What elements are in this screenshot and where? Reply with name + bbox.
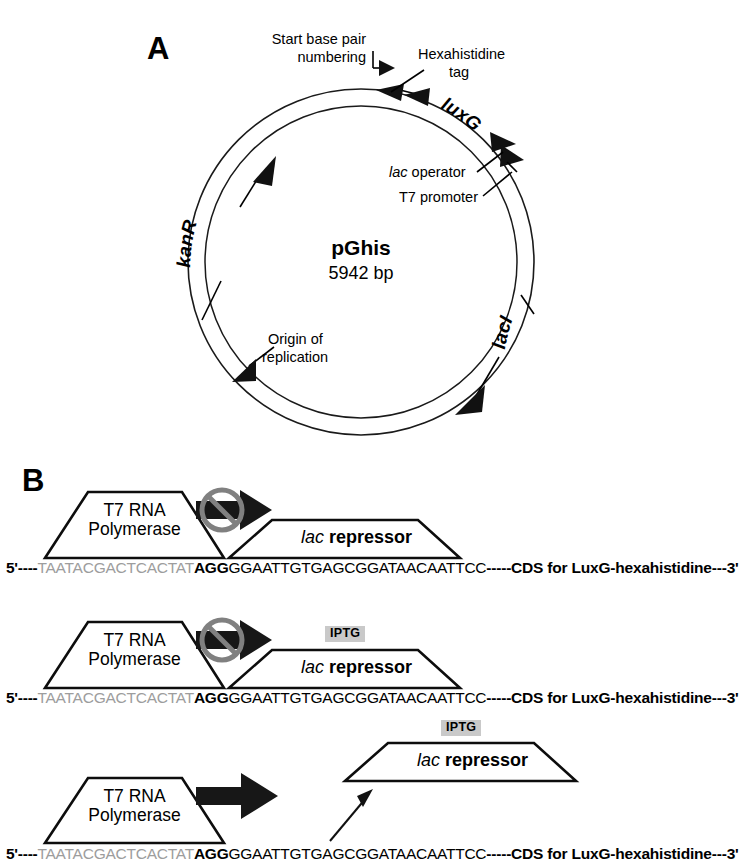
t7-polymerase-label-line2: Polymerase — [88, 519, 180, 539]
repressor-release-arrowhead-row3 — [357, 789, 373, 807]
luxG-arrowhead-4 — [500, 145, 524, 167]
cds-seq-row1: -----CDS for LuxG-hexahistidine---3' — [486, 559, 738, 576]
t7-polymerase-label-row1: T7 RNA Polymerase — [52, 501, 217, 539]
t7-polymerase-label-line1: T7 RNA — [103, 630, 165, 650]
transcription-start-seq-row3: AGG — [194, 845, 229, 862]
cds-seq-row2: -----CDS for LuxG-hexahistidine---3' — [486, 689, 738, 706]
origin-arrowhead — [232, 359, 256, 382]
luxG-arrowhead-2 — [404, 88, 430, 106]
t7-promoter-leader — [483, 172, 512, 196]
iptg-badge-row2: IPTG — [325, 626, 365, 642]
lacI-arrowhead — [455, 385, 485, 415]
iptg-badge-row3: IPTG — [441, 720, 481, 736]
lac-repressor-italic-row1: lac — [301, 527, 324, 547]
lac-repressor-rest-row1: repressor — [329, 527, 412, 547]
lac-operator-seq-row1: GGAATTGTGAGCGGATAACAATTCC — [228, 559, 486, 576]
lac-repressor-italic-row2: lac — [301, 657, 324, 677]
plasmid-map: kanR luxG lacI — [0, 0, 732, 455]
transcription-start-seq-row2: AGG — [194, 689, 229, 706]
t7-polymerase-label-line1: T7 RNA — [103, 786, 165, 806]
t7-polymerase-label-line2: Polymerase — [88, 805, 180, 825]
t7-polymerase-label-line1: T7 RNA — [103, 500, 165, 520]
dna-sequence-row1: 5'----TAATACGACTCACTATAGGGGAATTGTGAGCGGA… — [6, 559, 739, 576]
lac-operator-seq-row2: GGAATTGTGAGCGGATAACAATTCC — [228, 689, 486, 706]
lac-operator-italic: lac — [389, 164, 408, 180]
start-numbering-label-line1: Start base pair — [272, 31, 366, 47]
hexahistidine-label-line2: tag — [449, 64, 469, 80]
transcription-start-seq-row1: AGG — [194, 559, 229, 576]
five-prime-row3: 5'---- — [6, 845, 37, 862]
plasmid-name: pGhis — [331, 236, 391, 259]
lac-operator-rest: operator — [408, 164, 466, 180]
start-numbering-label-line2: numbering — [297, 49, 366, 65]
t7-polymerase-label-line2: Polymerase — [88, 649, 180, 669]
dna-sequence-row3: 5'----TAATACGACTCACTATAGGGGAATTGTGAGCGGA… — [6, 845, 739, 862]
lac-repressor-label-row3: lac repressor — [417, 750, 528, 771]
lac-repressor-rest-row3: repressor — [445, 750, 528, 770]
dna-sequence-row2: 5'----TAATACGACTCACTATAGGGGAATTGTGAGCGGA… — [6, 689, 739, 706]
kanR-tail — [202, 281, 221, 320]
t7-polymerase-label-row2: T7 RNA Polymerase — [52, 631, 217, 669]
five-prime-row1: 5'---- — [6, 559, 37, 576]
t7-promoter-seq-row3: TAATACGACTCACTAT — [37, 845, 193, 862]
plasmid-size: 5942 bp — [328, 263, 393, 283]
t7-polymerase-label-row3: T7 RNA Polymerase — [52, 787, 217, 825]
start-numbering-arrowhead — [379, 60, 395, 76]
hexahistidine-label-line1: Hexahistidine — [418, 46, 505, 62]
kanR-arc-label: kanR — [173, 218, 200, 268]
plasmid-outer-ring — [188, 89, 534, 435]
origin-label-line1: Origin of — [268, 331, 324, 347]
lac-operator-label: lac operator — [389, 164, 466, 180]
kanR-arrowhead — [253, 156, 276, 186]
cds-seq-row3: -----CDS for LuxG-hexahistidine---3' — [486, 845, 738, 862]
luxG-arc-label: luxG — [438, 93, 486, 135]
five-prime-row2: 5'---- — [6, 689, 37, 706]
t7-promoter-label: T7 promoter — [399, 189, 478, 205]
hexahistidine-leader — [391, 70, 424, 92]
origin-label-line2: replication — [262, 349, 328, 365]
t7-promoter-seq-row1: TAATACGACTCACTAT — [37, 559, 193, 576]
lac-operator-seq-row3: GGAATTGTGAGCGGATAACAATTCC — [228, 845, 486, 862]
lac-repressor-label-row1: lac repressor — [301, 527, 412, 548]
repressor-release-arrow-shaft-row3 — [330, 798, 366, 841]
lac-repressor-rest-row2: repressor — [329, 657, 412, 677]
lac-repressor-label-row2: lac repressor — [301, 657, 412, 678]
lac-repressor-italic-row3: lac — [417, 750, 440, 770]
t7-promoter-seq-row2: TAATACGACTCACTAT — [37, 689, 193, 706]
